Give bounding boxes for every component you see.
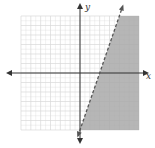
y-axis-arrow-bottom [77,138,83,144]
y-axis-arrow-top [77,3,83,9]
inequality-graph: x y [0,0,155,148]
x-axis-label: x [146,71,151,81]
boundary-arrow-top [119,5,124,11]
x-axis-arrow-left [6,70,12,76]
boundary-arrow-bottom [77,131,82,137]
y-axis-label: y [84,2,91,12]
